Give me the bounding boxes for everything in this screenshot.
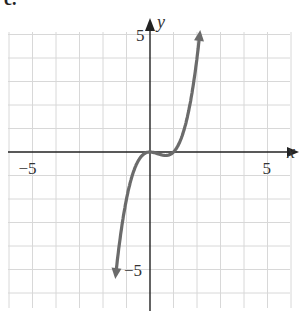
figure-label: c. [4,0,17,10]
y-axis-arrow-icon [145,18,155,31]
curve-arrow-up-icon [194,30,204,41]
x-tick-label: 5 [263,159,272,178]
function-graph: xy−555−5 [0,0,303,311]
x-tick-label: −5 [19,159,37,178]
x-axis-label: x [286,142,295,162]
axes [8,18,299,311]
y-tick-label: −5 [124,261,142,280]
function-curve [112,30,204,279]
y-axis-label: y [155,12,165,32]
y-tick-label: 5 [136,26,145,45]
axis-labels: xy−555−5 [19,12,296,280]
curve-arrow-down-icon [112,268,122,279]
curve-path [116,36,200,273]
